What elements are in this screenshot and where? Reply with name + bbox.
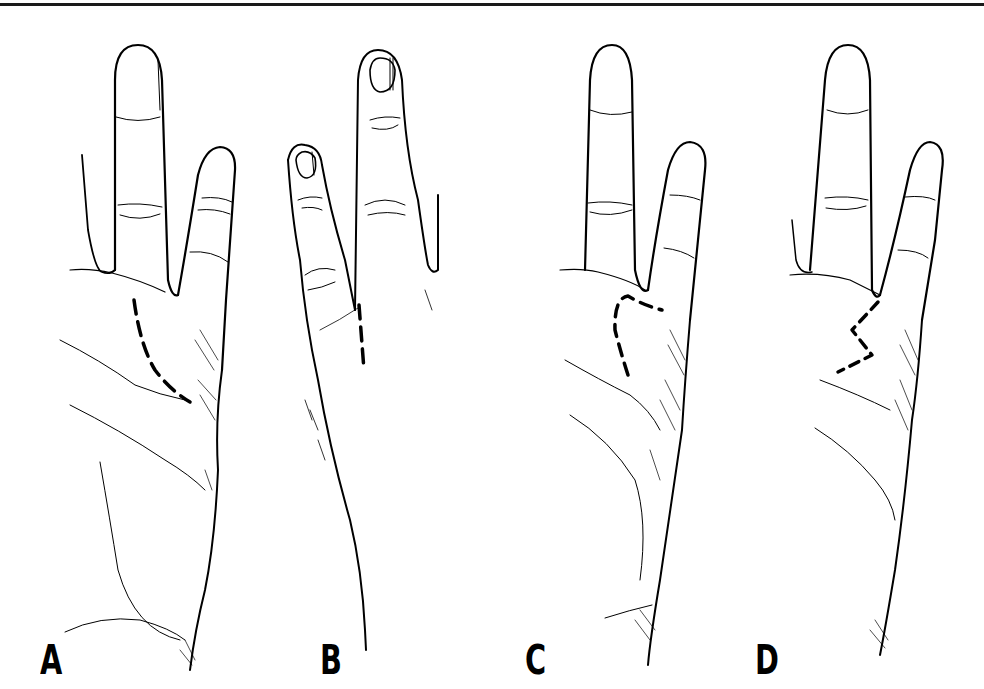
hand-illustrations [0, 0, 984, 689]
panel-label-d: D [755, 640, 779, 680]
panel-label-a: A [40, 640, 62, 680]
hand-panel-b [288, 50, 438, 650]
hand-panel-a [60, 45, 235, 670]
panel-label-c: C [525, 640, 546, 680]
panel-label-b: B [320, 640, 342, 680]
hand-panel-c [560, 45, 705, 665]
hand-panel-d [790, 45, 943, 655]
